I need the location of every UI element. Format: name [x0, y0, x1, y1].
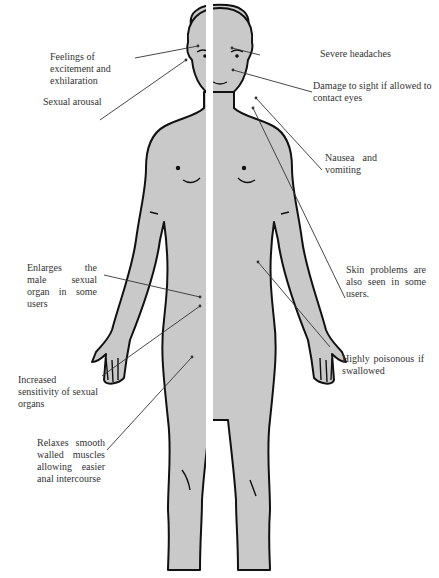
label-enlarges: Enlarges the male sexual organ in some u… — [27, 262, 97, 310]
label-nausea: Nausea and vomiting — [325, 152, 377, 176]
label-skin-problems: Skin problems are also seen in some user… — [346, 264, 426, 300]
label-relaxes-muscles: Relaxes smooth walled muscles allowing e… — [37, 437, 105, 485]
torso-arms — [92, 92, 346, 570]
label-highly-poisonous: Highly poisonous if swallowed — [342, 353, 424, 377]
label-increased-sensitivity: Increased sensitivity of sexual organs — [18, 374, 98, 410]
human-figure — [92, 5, 346, 570]
label-severe-headaches: Severe headaches — [320, 48, 430, 60]
label-excitement: Feelings of excitement and exhilaration — [50, 51, 140, 87]
center-divider — [206, 0, 213, 572]
label-damage-to-sight: Damage to sight if allowed to contact ey… — [313, 80, 435, 104]
label-sexual-arousal: Sexual arousal — [43, 96, 133, 108]
